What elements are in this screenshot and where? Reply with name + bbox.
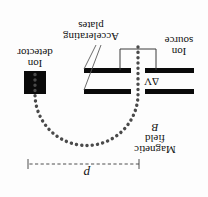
label-accelerating-plates: Accelerating plates — [60, 20, 122, 42]
label-ion-detector: Ion detector — [12, 47, 58, 69]
label-magnetic-field: Magnetic field B — [129, 121, 181, 155]
accelerating-plates-line2: plates — [78, 20, 104, 32]
ion-source-line2: source — [165, 35, 194, 47]
accelerating-plates-line1: Accelerating — [63, 31, 119, 43]
ion-detector-line1: Ion — [28, 58, 43, 70]
label-radius-p: p — [84, 167, 91, 180]
magnetic-field-line2: field — [145, 133, 165, 145]
ion-detector-line2: detector — [17, 47, 52, 59]
label-potential-difference: ΔV — [144, 76, 159, 87]
ion-source-line1: Ion — [172, 46, 187, 58]
mass-spectrometer-diagram: Magnetic field B p ΔV Ion source Acceler… — [0, 0, 208, 197]
magnetic-field-symbol: B — [152, 122, 159, 134]
leader-line-lower-plate — [84, 45, 96, 69]
magnetic-field-line1: Magnetic — [134, 144, 176, 156]
label-ion-source: Ion source — [156, 35, 202, 57]
